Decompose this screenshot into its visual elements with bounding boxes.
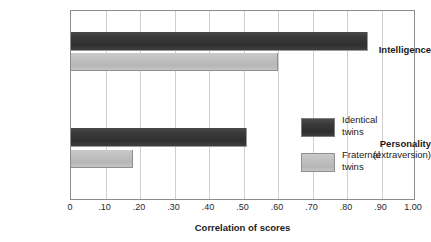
category-label-main: Personality	[363, 138, 431, 149]
bar-chart: Intelligence Personality (extraversion) …	[0, 0, 431, 242]
legend-label-fraternal-line2: twins	[342, 161, 364, 172]
legend-label-fraternal-line1: Fraternal	[342, 149, 380, 160]
legend-label-fraternal: Fraternal twins	[342, 149, 380, 173]
bar-intelligence-fraternal	[71, 53, 278, 71]
xtick-label: 1.00	[404, 202, 422, 212]
legend-label-identical-line2: twins	[342, 126, 364, 137]
legend-swatch-fraternal	[301, 153, 335, 172]
xtick-label: .40	[202, 202, 215, 212]
legend-swatch-identical	[301, 118, 335, 137]
xtick-label: 0	[67, 202, 72, 212]
category-label-intelligence: Intelligence	[363, 44, 431, 55]
xtick-label: .50	[236, 202, 249, 212]
xtick-label: .20	[133, 202, 146, 212]
gridline	[382, 11, 383, 199]
xtick-label: .90	[374, 202, 387, 212]
xtick-label: .60	[271, 202, 284, 212]
xtick-label: .10	[98, 202, 111, 212]
bar-personality-fraternal	[71, 150, 133, 168]
legend-label-identical-line1: Identical	[342, 114, 377, 125]
xtick-label: .80	[340, 202, 353, 212]
x-axis-title: Correlation of scores	[70, 222, 415, 233]
xtick-label: .70	[305, 202, 318, 212]
bar-intelligence-identical	[71, 32, 368, 51]
xtick-label: .30	[167, 202, 180, 212]
legend-label-identical: Identical twins	[342, 114, 377, 138]
bar-personality-identical	[71, 128, 247, 147]
category-label-main: Intelligence	[363, 44, 431, 55]
